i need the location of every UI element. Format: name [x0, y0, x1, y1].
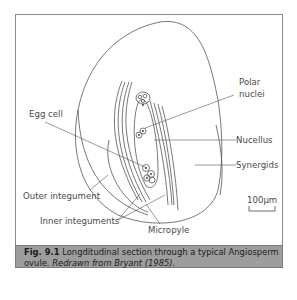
- caption-credit: Redrawn from Bryant (1985).: [52, 258, 175, 268]
- leader-lines: [45, 95, 236, 224]
- label-inner-integuments: Inner integuments: [40, 216, 120, 226]
- figure-caption: Fig. 9.1 Longditudinal section through a…: [15, 245, 283, 268]
- label-synergids: Synergids: [236, 160, 279, 170]
- label-polar: Polar: [239, 77, 261, 87]
- label-nucellus: Nucellus: [236, 135, 273, 145]
- label-scale: 100µm: [247, 195, 277, 205]
- scale-bar: [249, 206, 275, 211]
- label-nuclei: nuclei: [239, 89, 265, 99]
- label-egg-cell: Egg cell: [29, 109, 63, 119]
- label-micropyle: Micropyle: [148, 225, 189, 235]
- caption-number: Fig. 9.1: [24, 247, 60, 257]
- label-outer-integument: Outer integument: [23, 191, 101, 201]
